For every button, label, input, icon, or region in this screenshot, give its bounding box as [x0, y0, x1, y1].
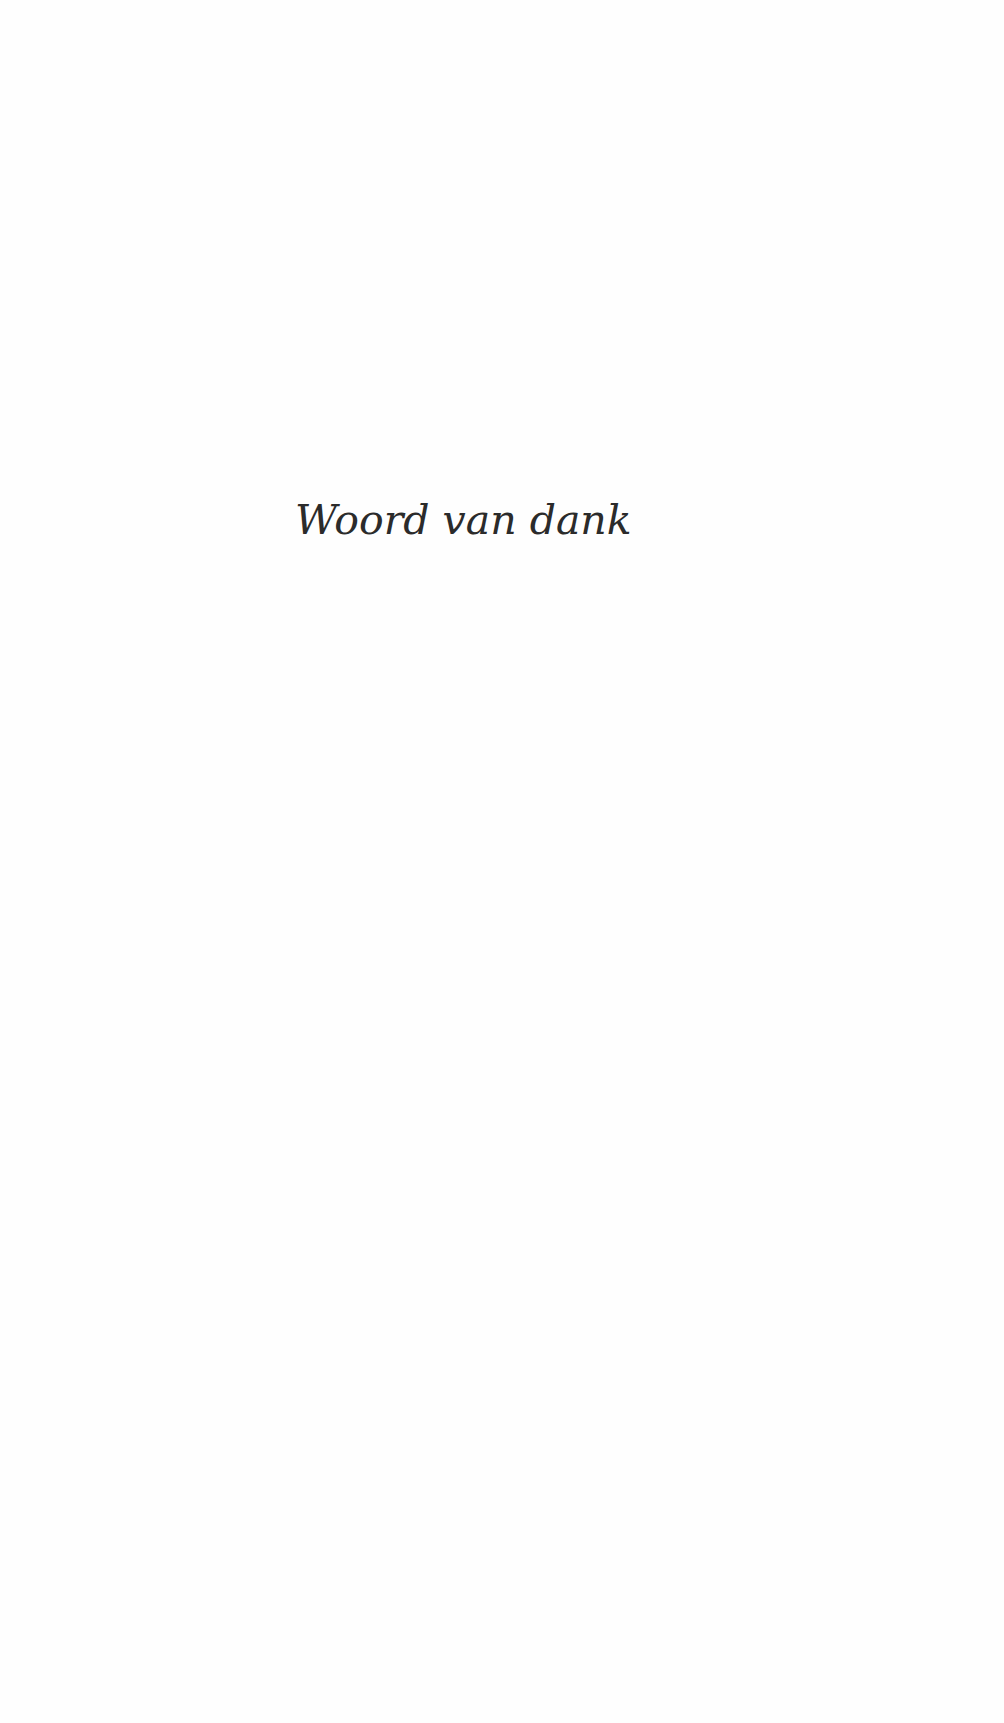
chapter-title: Woord van dank — [295, 496, 632, 545]
document-page: Woord van dank — [0, 0, 1004, 1723]
